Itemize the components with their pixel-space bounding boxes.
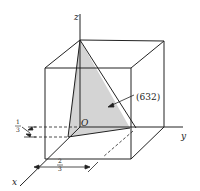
x-axis-label: x bbox=[12, 177, 17, 187]
x-intercept-den: 3 bbox=[58, 165, 62, 172]
plane-632 bbox=[68, 40, 130, 137]
x-intercept-dimension bbox=[34, 162, 98, 172]
z-intercept-den: 3 bbox=[16, 126, 20, 133]
y-axis-label: y bbox=[180, 131, 187, 141]
origin-label: O bbox=[81, 118, 89, 128]
plane-label: (632) bbox=[136, 92, 160, 102]
z-axis-label: z bbox=[73, 12, 79, 22]
x-intercept-num: 2 bbox=[58, 157, 62, 164]
z-intercept-num: 1 bbox=[16, 118, 20, 125]
z-intercept-dimension bbox=[22, 127, 36, 137]
miller-plane-diagram: z y x O (632) 1 3 2 3 bbox=[0, 0, 200, 191]
